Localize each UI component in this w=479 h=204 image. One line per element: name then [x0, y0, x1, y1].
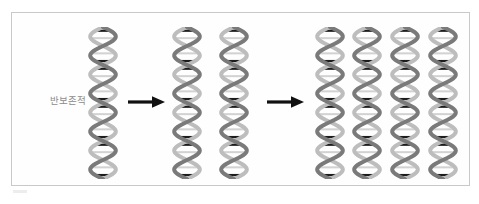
arrow-head	[291, 96, 304, 108]
dna-double-helix	[88, 27, 118, 179]
base-pair-rung	[175, 113, 199, 115]
base-pair-rung	[318, 37, 342, 39]
base-pair-rung	[393, 151, 417, 153]
base-pair-rung	[393, 113, 417, 115]
arrow-shaft	[267, 100, 293, 103]
arrow-head	[152, 96, 165, 108]
replication-arrow	[267, 95, 304, 109]
base-pair-rung	[355, 37, 379, 39]
base-pair-rung	[393, 37, 417, 39]
base-pair-rung	[431, 151, 455, 153]
dna-double-helix	[219, 27, 249, 179]
base-pair-rung	[355, 151, 379, 153]
base-pair-rung	[91, 113, 115, 115]
dna-double-helix	[315, 27, 345, 179]
base-pair-rung	[222, 37, 246, 39]
base-pair-rung	[318, 113, 342, 115]
scan-artifact	[13, 190, 27, 193]
base-pair-rung	[393, 75, 417, 77]
dna-double-helix	[352, 27, 382, 179]
arrow-shaft	[128, 100, 154, 103]
base-pair-rung	[91, 75, 115, 77]
base-pair-rung	[431, 37, 455, 39]
base-pair-rung	[91, 151, 115, 153]
base-pair-rung	[318, 75, 342, 77]
dna-double-helix	[428, 27, 458, 179]
base-pair-rung	[91, 37, 115, 39]
base-pair-rung	[355, 75, 379, 77]
base-pair-rung	[222, 75, 246, 77]
base-pair-rung	[175, 75, 199, 77]
base-pair-rung	[222, 113, 246, 115]
base-pair-rung	[318, 151, 342, 153]
figure-root: 반보존적	[0, 0, 479, 204]
base-pair-rung	[222, 151, 246, 153]
base-pair-rung	[431, 113, 455, 115]
base-pair-rung	[431, 75, 455, 77]
base-pair-rung	[175, 151, 199, 153]
dna-double-helix	[172, 27, 202, 179]
base-pair-rung	[355, 113, 379, 115]
dna-double-helix	[390, 27, 420, 179]
base-pair-rung	[175, 37, 199, 39]
replication-arrow	[128, 95, 165, 109]
